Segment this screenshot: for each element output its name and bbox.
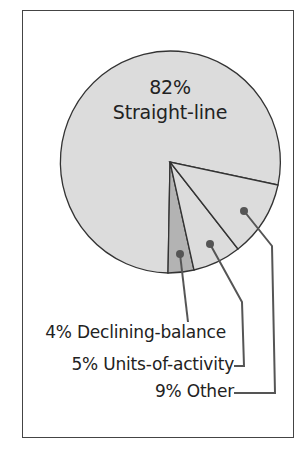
straight-line-label: Straight-line bbox=[0, 101, 308, 123]
legend-units-of-activity: 5% Units-of-activity bbox=[71, 354, 234, 374]
straight-line-percent: 82% bbox=[0, 76, 308, 98]
legend-declining-balance: 4% Declining-balance bbox=[45, 322, 226, 342]
legend-other: 9% Other bbox=[155, 381, 234, 401]
